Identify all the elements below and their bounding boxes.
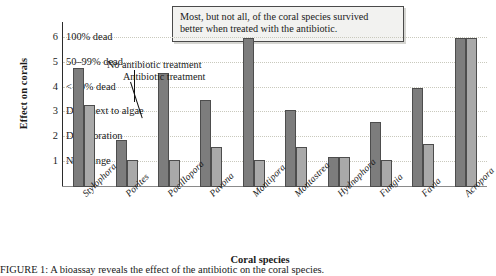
legend-label-no-antibiotic: No antibiotic treatment: [107, 59, 202, 70]
bar: [158, 73, 169, 187]
bar-group: [116, 22, 138, 187]
bar-group: [73, 22, 95, 187]
y-tick-value: 4: [40, 82, 58, 92]
bar-group: [158, 22, 180, 187]
bar: [116, 140, 127, 187]
y-tick-value: 2: [40, 131, 58, 141]
y-tick-value: 3: [40, 106, 58, 116]
bar: [412, 88, 423, 187]
bar-group: [412, 22, 434, 187]
bar: [243, 38, 254, 187]
bar: [466, 38, 477, 187]
bar-group: [285, 22, 307, 187]
y-tick-value: 6: [40, 32, 58, 42]
bar-group: [243, 22, 265, 187]
bar: [200, 100, 211, 187]
bar: [73, 68, 84, 187]
y-tick-value: 1: [40, 156, 58, 166]
bar: [285, 110, 296, 187]
y-axis-title: Effect on corals: [18, 34, 29, 154]
legend-label-antibiotic: Antibiotic treatment: [123, 71, 205, 82]
bar: [328, 157, 339, 187]
plot-area: [63, 22, 487, 187]
bar: [455, 38, 466, 187]
bar-group: [328, 22, 350, 187]
bar-group: [455, 22, 477, 187]
figure-caption: FIGURE 1: A bioassay reveals the effect …: [0, 264, 493, 276]
y-tick-value: 5: [40, 57, 58, 67]
bar: [84, 105, 95, 187]
bar: [370, 122, 381, 187]
